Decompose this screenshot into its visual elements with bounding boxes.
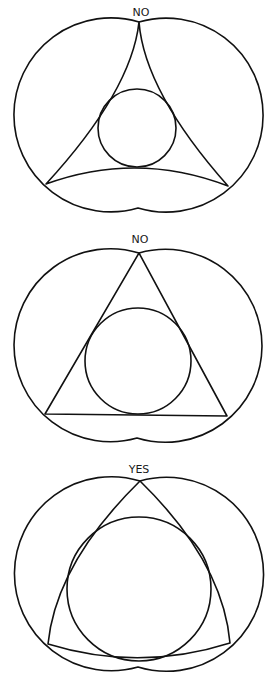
figure-1-label: NO [133,6,150,19]
figure-1: NO [14,6,263,212]
figure-1-inner-circle [98,89,176,167]
figure-3-inner-circle [67,517,211,661]
figure-3-triangle [48,481,230,658]
figure-2-inner-circle [85,308,191,414]
figure-2-label: NO [132,233,149,246]
figure-2-triangle [45,253,227,416]
figure-2: NO [14,233,262,442]
figure-3-label: YES [128,463,150,476]
figure-3-outer-outline [14,477,263,672]
diagram-svg: NO NO YES [0,0,280,684]
figure-3: YES [14,463,263,671]
figure-1-triangle [46,22,228,186]
diagram-canvas: NO NO YES [0,0,280,684]
